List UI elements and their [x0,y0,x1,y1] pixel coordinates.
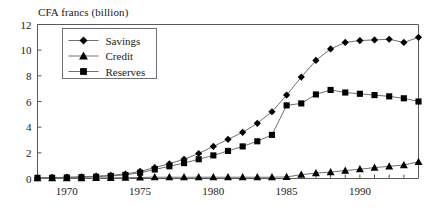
square-marker-icon [49,175,55,181]
x-tick-label: 1990 [349,185,372,197]
square-marker-icon [93,174,99,180]
triangle-marker-icon [209,173,217,180]
square-marker-icon [357,91,363,97]
square-marker-icon [415,98,421,104]
chart-legend: SavingsCreditReserves [63,29,157,79]
square-marker-icon [401,95,407,101]
square-marker-icon [64,174,70,180]
series-credit [34,158,423,182]
diamond-marker-icon [356,37,363,44]
square-marker-icon [386,93,392,99]
y-tick-label: 8 [26,70,32,82]
y-axis-ticks: 024681012 [21,19,42,185]
y-tick-label: 6 [26,96,32,108]
square-marker-icon [152,166,158,172]
y-tick-label: 12 [21,19,32,31]
square-marker-icon [371,92,377,98]
diamond-marker-icon [415,34,422,41]
square-marker-icon [254,138,260,144]
square-marker-icon [196,156,202,162]
diamond-marker-icon [224,136,231,143]
square-marker-icon [80,68,87,75]
chart-screenshot: CFA francs (billion) 024681012 197019751… [0,0,436,212]
y-tick-label: 4 [26,121,32,133]
square-marker-icon [210,152,216,158]
triangle-marker-icon [239,173,247,180]
triangle-marker-icon [180,173,188,180]
square-marker-icon [166,163,172,169]
square-marker-icon [269,132,275,138]
square-marker-icon [298,100,304,106]
diamond-marker-icon [239,129,246,136]
y-tick-label: 0 [26,173,32,185]
series-reserves [34,87,421,181]
triangle-marker-icon [165,173,173,180]
square-marker-icon [313,91,319,97]
square-marker-icon [328,87,334,93]
diamond-marker-icon [386,36,393,43]
x-tick-label: 1985 [276,185,299,197]
diamond-marker-icon [195,150,202,157]
legend-label: Credit [106,50,134,62]
square-marker-icon [225,148,231,154]
square-marker-icon [78,174,84,180]
square-marker-icon [284,102,290,108]
square-marker-icon [181,160,187,166]
legend-label: Savings [106,35,141,47]
square-marker-icon [342,89,348,95]
square-marker-icon [34,175,40,181]
x-tick-label: 1980 [202,185,225,197]
diamond-marker-icon [371,36,378,43]
triangle-marker-icon [195,173,203,180]
diamond-marker-icon [400,39,407,46]
square-marker-icon [108,173,114,179]
y-tick-label: 2 [26,147,32,159]
line-chart-plot: 024681012 19701975198019851990 SavingsCr… [0,0,436,212]
triangle-marker-icon [253,173,261,180]
legend-label: Reserves [106,66,146,78]
x-tick-label: 1975 [129,185,152,197]
triangle-marker-icon [415,158,423,165]
square-marker-icon [122,172,128,178]
square-marker-icon [240,143,246,149]
triangle-marker-icon [151,173,159,180]
diamond-marker-icon [210,143,217,150]
square-marker-icon [137,170,143,176]
triangle-marker-icon [224,173,232,180]
x-tick-label: 1970 [56,185,79,197]
y-tick-label: 10 [21,44,33,56]
diamond-marker-icon [342,39,349,46]
